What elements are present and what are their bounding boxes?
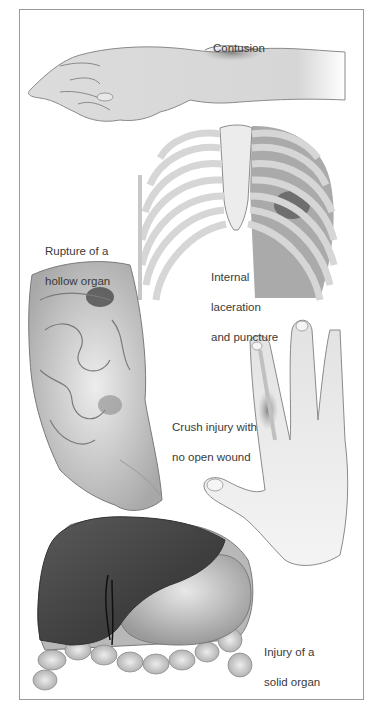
label-internal-line3: and puncture (211, 330, 278, 345)
label-hollow-organ: Rupture of a hollow organ (45, 229, 110, 304)
label-solid-organ-line2: solid organ (264, 675, 320, 690)
label-crush-line1: Crush injury with (172, 420, 257, 435)
liver-illustration (33, 517, 253, 690)
label-crush-injury: Crush injury with no open wound (172, 405, 257, 480)
label-solid-organ-line1: Injury of a (264, 645, 320, 660)
label-hollow-organ-line2: hollow organ (45, 274, 110, 289)
label-hollow-organ-line1: Rupture of a (45, 244, 110, 259)
label-contusion: Contusion (213, 26, 265, 71)
label-solid-organ: Injury of a solid organ (264, 630, 320, 705)
label-internal-line2: laceration (211, 300, 278, 315)
arm-illustration (28, 45, 345, 121)
label-internal-laceration: Internal laceration and puncture (211, 255, 278, 360)
label-contusion-text: Contusion (213, 41, 265, 56)
label-crush-line2: no open wound (172, 450, 257, 465)
injury-illustration (0, 0, 377, 713)
label-internal-line1: Internal (211, 270, 278, 285)
